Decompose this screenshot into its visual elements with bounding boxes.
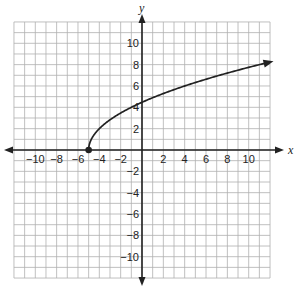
x-tick-label: −2 [114, 153, 127, 165]
y-tick-label: −6 [126, 208, 139, 220]
x-tick-label: −8 [50, 153, 63, 165]
y-tick-label: −10 [120, 251, 139, 263]
x-axis-left-arrow-icon [4, 147, 13, 154]
y-axis-up-arrow-icon [139, 14, 146, 23]
x-tick-label: −4 [93, 153, 106, 165]
x-tick-label: 10 [243, 153, 255, 165]
coordinate-plane: −10−8−6−4−2246810108642−2−4−6−8−10 x y [0, 0, 295, 293]
curve-arrow-icon [263, 60, 274, 68]
y-axis-down-arrow-icon [139, 277, 146, 286]
y-tick-label: −8 [126, 229, 139, 241]
x-axis-label: x [287, 143, 294, 157]
y-tick-label: 4 [133, 101, 139, 113]
y-tick-label: 2 [133, 123, 139, 135]
x-tick-label: 8 [224, 153, 230, 165]
y-tick-label: 8 [133, 59, 139, 71]
x-tick-label: −6 [72, 153, 85, 165]
x-tick-label: −10 [26, 153, 45, 165]
closed-endpoint-dot [85, 147, 92, 154]
x-axis-right-arrow-icon [275, 147, 284, 154]
y-tick-label: 6 [133, 80, 139, 92]
x-tick-label: 2 [160, 153, 166, 165]
y-tick-label: 10 [127, 37, 139, 49]
y-tick-label: −4 [126, 187, 139, 199]
y-axis-label: y [138, 1, 145, 15]
y-tick-label: −2 [126, 165, 139, 177]
x-tick-label: 4 [182, 153, 188, 165]
x-tick-label: 6 [203, 153, 209, 165]
